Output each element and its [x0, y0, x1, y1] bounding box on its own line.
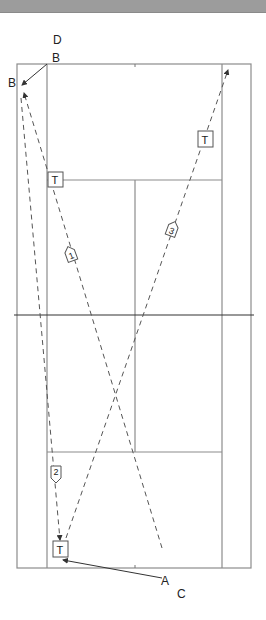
svg-text:T: T [57, 544, 64, 556]
t-marker-2: T [198, 131, 213, 147]
t-marker-3: T [53, 541, 68, 557]
court-outer-boundary [17, 64, 251, 568]
path-2-label: 2 [51, 466, 61, 483]
court-diagram: D B B A C T T T 1 2 3 [0, 0, 266, 620]
t-marker-1: T [48, 172, 63, 187]
label-c: C [177, 587, 186, 601]
path-3-label: 3 [165, 220, 180, 238]
arrow-b-to-b [22, 64, 47, 85]
path-1-line [24, 93, 162, 548]
label-b-top: B [52, 51, 60, 65]
label-d: D [53, 33, 62, 47]
arrow-a-to-t [63, 560, 162, 578]
svg-text:2: 2 [54, 467, 59, 477]
svg-text:T: T [52, 174, 59, 186]
court-lines [17, 64, 251, 568]
svg-text:T: T [202, 134, 209, 146]
path-1-label: 1 [63, 245, 78, 263]
label-b-left: B [8, 76, 16, 90]
label-a: A [161, 574, 169, 588]
